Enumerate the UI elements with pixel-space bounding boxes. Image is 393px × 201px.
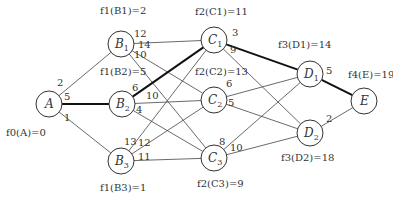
f-value-label-e: f4(E)=19 <box>348 69 393 80</box>
edge-weight-c1-d1: 3 <box>232 27 238 38</box>
f-value-label-d2: f3(D2)=18 <box>281 152 334 163</box>
node-c1: C1 <box>201 27 227 53</box>
f-value-label-b1: f1(B1)=2 <box>100 5 146 16</box>
edge-weight-a-b3: 1 <box>64 112 70 123</box>
edge-weight-a-b1: 2 <box>57 77 63 88</box>
edge-weight-b3-c2: 12 <box>138 137 151 148</box>
multistage-graph-diagram: 2511214106104131211396581052 AB1B2B3C1C2… <box>0 0 393 201</box>
edge-weight-b2-c1: 6 <box>132 82 138 93</box>
edge-weight-c3-d2: 10 <box>230 142 243 153</box>
node-d1: D1 <box>297 61 323 87</box>
f-value-label-c1: f2(C1)=11 <box>195 6 248 17</box>
f-value-label-b3: f1(B3)=1 <box>100 182 146 193</box>
node-d2: D2 <box>297 120 323 146</box>
f-value-label-b2: f1(B2)=5 <box>100 66 146 77</box>
edge-weight-b3-c3: 11 <box>138 151 151 162</box>
edge-c1-d2 <box>223 49 300 124</box>
f-value-label-d1: f3(D1)=14 <box>278 39 331 50</box>
node-label: A <box>44 97 54 111</box>
node-b1: B1 <box>108 31 134 57</box>
edge-weight-b2-c2: 10 <box>146 90 159 101</box>
node-c2: C2 <box>201 87 227 113</box>
node-label: E <box>359 94 369 108</box>
node-b2: B2 <box>109 91 135 117</box>
node-b3: B3 <box>108 148 134 174</box>
edge-weight-b1-c1: 12 <box>134 28 147 39</box>
edge-weight-a-b2: 5 <box>64 91 70 102</box>
node-a: A <box>36 91 62 117</box>
f-value-label-a: f0(A)=0 <box>6 127 46 138</box>
edge-weight-c1-d2: 9 <box>230 44 236 55</box>
edge-weight-d2-e: 2 <box>326 113 332 124</box>
node-e: E <box>351 88 377 114</box>
edge-weight-b2-c3: 4 <box>136 104 142 115</box>
edge-weight-b3-c1: 13 <box>124 136 137 147</box>
edge-weight-c2-d1: 6 <box>226 78 232 89</box>
edge-c2-d1 <box>227 77 298 96</box>
f-value-label-c3: f2(C3)=9 <box>197 178 244 189</box>
edge-weight-c2-d2: 5 <box>228 97 234 108</box>
edge-weight-b1-c3: 10 <box>134 49 147 60</box>
edge-d1-e <box>322 80 353 95</box>
edge-c3-d1 <box>224 83 300 150</box>
f-value-label-c2: f2(C2)=13 <box>195 66 248 77</box>
node-c3: C3 <box>201 145 227 171</box>
edge-weight-c3-d1: 8 <box>219 136 225 147</box>
edge-weight-d1-e: 5 <box>326 65 332 76</box>
